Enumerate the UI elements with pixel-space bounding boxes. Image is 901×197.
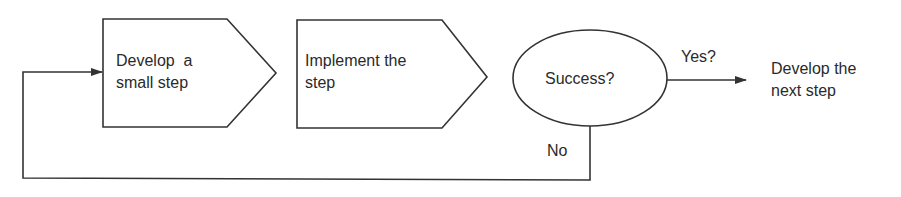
step1-line1: Develop a <box>116 50 193 72</box>
step-implement-label: Implement the step <box>305 50 406 94</box>
step2-line1: Implement the <box>305 50 406 72</box>
step1-line2: small step <box>116 72 193 94</box>
flowchart-canvas <box>0 0 901 197</box>
next-step-label: Develop the next step <box>771 58 856 102</box>
no-edge-label: No <box>547 140 567 162</box>
step-develop-small-step-label: Develop a small step <box>116 50 193 94</box>
step2-line2: step <box>305 72 406 94</box>
yes-edge-label: Yes? <box>681 46 716 68</box>
next-line2: next step <box>771 80 856 102</box>
decision-success-label: Success? <box>545 68 614 90</box>
next-line1: Develop the <box>771 58 856 80</box>
